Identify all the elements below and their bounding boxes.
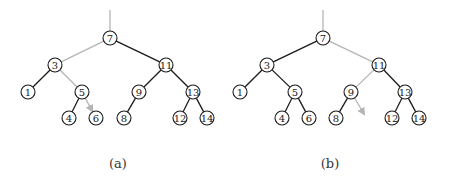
tree-node-13: 13: [398, 85, 412, 99]
node-key-label: 6: [93, 113, 99, 124]
tree-edge: [144, 70, 161, 87]
node-key-label: 5: [292, 87, 298, 98]
tree-edge: [127, 98, 135, 112]
tree-node-9: 9: [344, 85, 358, 99]
tree-node-12: 12: [173, 111, 187, 125]
node-key-label: 11: [160, 60, 173, 71]
tree-node-5: 5: [288, 85, 302, 99]
search-path-arrow: [355, 98, 364, 114]
tree-node-8: 8: [329, 111, 343, 125]
tree-node-1: 1: [233, 85, 247, 99]
node-key-label: 7: [107, 33, 113, 44]
highlighted-tree-edge: [356, 70, 374, 87]
tree-edge: [245, 70, 262, 87]
node-key-label: 14: [413, 113, 426, 124]
tree-node-11: 11: [159, 58, 173, 72]
node-key-label: 8: [121, 113, 127, 124]
node-key-label: 3: [52, 60, 58, 71]
tree-nodes-b: 7311159134681214: [233, 31, 426, 125]
tree-edge: [285, 98, 292, 111]
tree-edge: [395, 98, 402, 111]
search-path-arrow: [85, 98, 92, 111]
highlighted-tree-edge: [60, 70, 77, 87]
tree-edge: [384, 70, 400, 87]
tree-node-7: 7: [316, 31, 330, 45]
node-key-label: 13: [187, 87, 200, 98]
tree-node-13: 13: [186, 85, 200, 99]
node-key-label: 5: [79, 87, 85, 98]
tree-edge: [33, 70, 50, 87]
tree-node-12: 12: [385, 111, 399, 125]
node-key-label: 12: [174, 113, 187, 124]
tree-node-3: 3: [48, 58, 62, 72]
node-key-label: 11: [373, 60, 386, 71]
tree-edge: [183, 98, 190, 111]
node-key-label: 13: [399, 87, 412, 98]
binary-search-tree-figure: 7311159134681214 7311159134681214: [0, 0, 449, 191]
tree-node-8: 8: [117, 111, 131, 125]
tree-node-5: 5: [75, 85, 89, 99]
node-key-label: 1: [25, 87, 31, 98]
node-key-label: 1: [237, 87, 243, 98]
tree-node-14: 14: [200, 111, 214, 125]
tree-edge: [272, 70, 290, 87]
node-key-label: 9: [348, 87, 354, 98]
panel-caption-b: (b): [321, 156, 339, 171]
tree-node-14: 14: [412, 111, 426, 125]
tree-edge: [171, 70, 188, 87]
tree-node-3: 3: [260, 58, 274, 72]
tree-node-11: 11: [372, 58, 386, 72]
tree-panel-b: 7311159134681214: [233, 10, 426, 125]
tree-edge: [196, 98, 203, 112]
node-key-label: 7: [320, 33, 326, 44]
node-key-label: 6: [306, 113, 312, 124]
tree-edge: [298, 98, 305, 112]
tree-nodes-a: 7311159134681214: [21, 31, 214, 125]
highlighted-tree-edge: [329, 41, 372, 62]
node-key-label: 12: [386, 113, 399, 124]
tree-node-6: 6: [302, 111, 316, 125]
node-key-label: 4: [279, 113, 285, 124]
node-key-label: 9: [136, 87, 142, 98]
tree-edge: [72, 98, 79, 111]
tree-node-9: 9: [132, 85, 146, 99]
highlighted-tree-edge: [61, 41, 103, 62]
tree-edge: [408, 98, 415, 112]
node-key-label: 14: [201, 113, 214, 124]
tree-node-7: 7: [103, 31, 117, 45]
tree-node-6: 6: [89, 111, 103, 125]
node-key-label: 3: [264, 60, 270, 71]
panel-caption-a: (a): [109, 156, 127, 171]
node-key-label: 4: [66, 113, 72, 124]
tree-edge: [273, 41, 316, 62]
tree-node-4: 4: [275, 111, 289, 125]
tree-node-4: 4: [62, 111, 76, 125]
node-key-label: 8: [333, 113, 339, 124]
tree-edge: [116, 41, 159, 62]
tree-panel-a: 7311159134681214: [21, 10, 214, 125]
tree-edge: [339, 98, 347, 112]
tree-node-1: 1: [21, 85, 35, 99]
